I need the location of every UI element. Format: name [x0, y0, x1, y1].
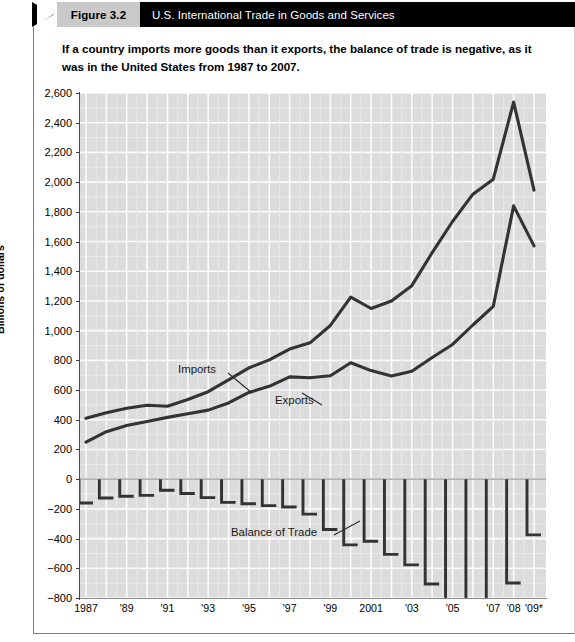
y-axis-tick-mark	[76, 420, 80, 421]
y-axis-tick-label: −800	[30, 592, 72, 604]
y-axis-tick-mark	[76, 539, 80, 540]
x-axis-tick-label: '07	[486, 602, 500, 614]
x-axis-tick-label: 2001	[359, 602, 383, 614]
y-axis-line	[79, 92, 81, 600]
exports-series-label: Exports	[275, 394, 314, 406]
chart-plot-area	[80, 93, 546, 598]
y-axis-tick-mark	[76, 301, 80, 302]
y-axis-tick-mark	[76, 182, 80, 183]
y-axis-tick-mark	[76, 598, 80, 599]
y-axis-tick-mark	[76, 152, 80, 153]
x-axis-tick-label: 1987	[74, 602, 98, 614]
y-axis-tick-mark	[76, 271, 80, 272]
x-axis-tick-label: '05	[446, 602, 460, 614]
y-axis-tick-mark	[76, 212, 80, 213]
imports-series-label: Imports	[178, 363, 216, 375]
y-axis-tick-label: −400	[30, 533, 72, 545]
figure-title: U.S. International Trade in Goods and Se…	[152, 2, 395, 27]
x-axis-tick-label: '89	[120, 602, 134, 614]
y-axis-tick-label: −600	[30, 562, 72, 574]
x-axis-tick-label: '08	[507, 602, 521, 614]
y-axis-tick-label: 1,000	[30, 325, 72, 337]
balance-leader-line	[334, 521, 360, 535]
y-axis-tick-label: 2,600	[30, 87, 72, 99]
y-axis-tick-label: 2,000	[30, 176, 72, 188]
x-axis-tick-label: '91	[161, 602, 175, 614]
y-axis-tick-label: 2,400	[30, 117, 72, 129]
y-axis-tick-label: 400	[30, 414, 72, 426]
y-axis-tick-mark	[76, 479, 80, 480]
chart-canvas	[80, 93, 546, 598]
y-axis-tick-mark	[76, 509, 80, 510]
balance-of-trade-series-label: Balance of Trade	[231, 526, 317, 538]
y-axis-tick-label: 1,200	[30, 295, 72, 307]
x-axis-tick-label: '09*	[525, 602, 543, 614]
y-axis-tick-mark	[76, 360, 80, 361]
figure-page: Figure 3.2 U.S. International Trade in G…	[0, 0, 575, 642]
y-axis-tick-mark	[76, 242, 80, 243]
y-axis-tick-label: 2,200	[30, 146, 72, 158]
x-axis-tick-label: '03	[405, 602, 419, 614]
x-axis-tick-label: '97	[283, 602, 297, 614]
y-axis-tick-label: 800	[30, 354, 72, 366]
y-axis-tick-mark	[76, 93, 80, 94]
y-axis-tick-label: 600	[30, 384, 72, 396]
y-axis-tick-label: 1,400	[30, 265, 72, 277]
figure-caption: If a country imports more goods than it …	[62, 40, 532, 76]
y-axis-tick-mark	[76, 331, 80, 332]
figure-number-badge: Figure 3.2	[57, 2, 140, 27]
y-axis-tick-label: −200	[30, 503, 72, 515]
y-axis-tick-mark	[76, 123, 80, 124]
y-axis-tick-label: 1,800	[30, 206, 72, 218]
y-axis-tick-mark	[76, 568, 80, 569]
x-axis-line	[79, 598, 547, 600]
x-axis-tick-label: '99	[323, 602, 337, 614]
y-axis-tick-label: 200	[30, 443, 72, 455]
y-axis-tick-label: 1,600	[30, 236, 72, 248]
x-axis-tick-label: '93	[201, 602, 215, 614]
x-axis-tick-label: '95	[242, 602, 256, 614]
y-axis-title: Billions of dollars	[0, 245, 6, 334]
y-axis-tick-mark	[76, 390, 80, 391]
y-axis-tick-mark	[76, 449, 80, 450]
y-axis-tick-label: 0	[30, 473, 72, 485]
